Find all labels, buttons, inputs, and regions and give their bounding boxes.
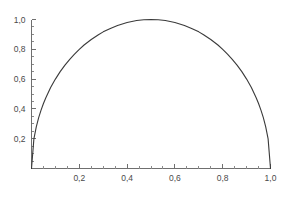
data-series-group	[32, 20, 271, 169]
x-axis-tick-label: 0,2	[73, 173, 85, 183]
x-axis-minor-ticks	[32, 166, 271, 169]
y-axis-tick-label: 0,8	[14, 44, 26, 54]
y-axis-group: 0,20,40,60,81,0	[14, 15, 36, 169]
x-axis-tick-label: 1,0	[265, 173, 277, 183]
x-axis-group: 0,20,40,60,81,0	[32, 164, 277, 183]
x-axis-tick-label: 0,8	[217, 173, 229, 183]
plot-canvas: 0,20,40,60,81,0 0,20,40,60,81,0	[0, 0, 288, 200]
y-axis-tick-label: 0,2	[14, 134, 26, 144]
x-axis-tick-label: 0,4	[121, 173, 133, 183]
chart-screenshot: 0,20,40,60,81,0 0,20,40,60,81,0	[0, 0, 288, 200]
y-axis-tick-label: 1,0	[14, 15, 26, 25]
x-axis-tick-labels: 0,20,40,60,81,0	[73, 173, 276, 183]
x-axis-major-ticks	[79, 164, 270, 169]
y-axis-tick-labels: 0,20,40,60,81,0	[14, 15, 26, 144]
y-axis-tick-label: 0,4	[14, 104, 26, 114]
y-axis-tick-label: 0,6	[14, 74, 26, 84]
series-line-curve	[32, 20, 271, 169]
x-axis-tick-label: 0,6	[169, 173, 181, 183]
y-axis-major-ticks	[32, 20, 37, 139]
